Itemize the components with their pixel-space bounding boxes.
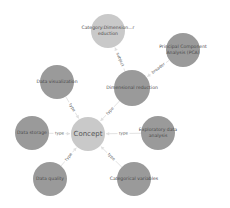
node-label: analysis bbox=[149, 133, 168, 138]
node-quality[interactable]: Data quality bbox=[33, 162, 67, 196]
node-label: Data storage bbox=[17, 130, 47, 135]
edge-quality-concept[interactable]: type bbox=[61, 148, 76, 166]
edge-dimred-concept[interactable]: type bbox=[100, 101, 119, 121]
node-label: Category:Dimension...r bbox=[82, 25, 135, 30]
edges-layer: subjectbroadertypetypetypetypetypetype bbox=[49, 48, 169, 168]
node-label: Data visualization bbox=[36, 79, 77, 84]
node-dataviz[interactable]: Data visualization bbox=[36, 65, 77, 99]
node-label: Exploratory data bbox=[139, 127, 178, 132]
edge-pca-dimred[interactable]: broader bbox=[147, 60, 169, 76]
arrowhead-icon bbox=[67, 132, 70, 136]
node-label: Concept bbox=[74, 130, 103, 138]
node-label: Principal Component bbox=[159, 44, 207, 49]
node-label: Data quality bbox=[36, 176, 64, 181]
node-catvar[interactable]: Categorical variables bbox=[110, 162, 159, 196]
knowledge-graph: subjectbroadertypetypetypetypetypetype C… bbox=[0, 0, 230, 208]
edge-label: broader bbox=[150, 61, 166, 75]
arrowhead-icon bbox=[106, 132, 109, 136]
node-category[interactable]: Category:Dimension...reduction bbox=[82, 14, 135, 48]
node-label: Dimensional reduction bbox=[106, 85, 158, 90]
nodes-layer: Category:Dimension...reductionPrincipal … bbox=[15, 14, 207, 196]
edge-eda-concept[interactable]: type bbox=[106, 131, 141, 137]
edge-catvar-concept[interactable]: type bbox=[101, 147, 122, 168]
edge-storage-concept[interactable]: type bbox=[49, 131, 70, 137]
edge-label: subject bbox=[115, 52, 125, 68]
edge-dataviz-concept[interactable]: type bbox=[66, 97, 79, 119]
node-eda[interactable]: Exploratory dataanalysis bbox=[139, 116, 178, 150]
node-label: eduction bbox=[98, 31, 118, 36]
node-label: Categorical variables bbox=[110, 176, 159, 181]
node-concept[interactable]: Concept bbox=[71, 117, 105, 151]
node-label: Analysis (PCA) bbox=[166, 50, 199, 55]
edge-dimred-category[interactable]: subject bbox=[114, 48, 126, 72]
edge-label: type bbox=[119, 131, 129, 136]
edge-label: type bbox=[55, 131, 65, 136]
node-storage[interactable]: Data storage bbox=[15, 116, 49, 150]
